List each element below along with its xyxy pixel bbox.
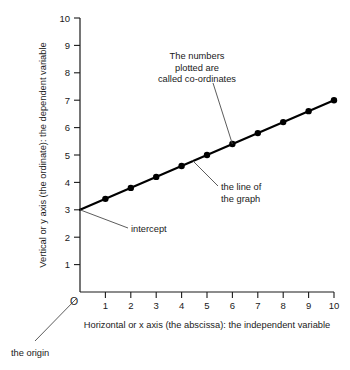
data-point xyxy=(204,152,210,158)
x-axis-title: Horizontal or x axis (the abscissa): the… xyxy=(84,320,331,330)
y-tick-label: 1 xyxy=(65,259,70,270)
x-tick-label: 5 xyxy=(204,300,209,311)
x-tick-label: 1 xyxy=(103,300,108,311)
annotation-line-of-graph-line-1: the line of xyxy=(221,182,262,192)
y-tick-label: 6 xyxy=(65,122,70,133)
annotation-leader-line xyxy=(80,210,128,228)
y-tick-label: 9 xyxy=(65,40,70,51)
data-point xyxy=(331,97,337,103)
annotation-leader-line xyxy=(192,160,218,186)
annotation-origin-label: the origin xyxy=(11,348,49,358)
x-tick-label: 6 xyxy=(230,300,235,311)
figure-container: 10 9 8 7 6 5 4 3 2 1 1 2 xyxy=(0,0,350,370)
coordinate-graph-figure: 10 9 8 7 6 5 4 3 2 1 1 2 xyxy=(0,0,350,370)
annotation-leader-line xyxy=(213,83,232,144)
y-tick-label: 8 xyxy=(65,67,70,78)
data-point xyxy=(153,174,159,180)
y-tick-label: 4 xyxy=(65,177,70,188)
data-point xyxy=(102,196,108,202)
x-tick-label: 8 xyxy=(281,300,286,311)
annotation-coordinates-line-1: The numbers xyxy=(170,51,225,61)
annotation-leader-line xyxy=(35,299,76,341)
y-axis-title: Vertical or y axis (the ordinate): the d… xyxy=(38,42,48,267)
x-tick-label: 4 xyxy=(179,300,184,311)
data-point xyxy=(128,185,134,191)
annotation-origin: the origin xyxy=(11,299,76,358)
annotation-line-of-graph: the line of the graph xyxy=(192,160,262,204)
data-point xyxy=(255,130,261,136)
annotation-line-of-graph-line-2: the graph xyxy=(221,194,260,204)
annotation-intercept: intercept xyxy=(80,210,167,234)
data-point xyxy=(280,119,286,125)
y-tick-label: 10 xyxy=(59,13,70,24)
y-tick-label: 3 xyxy=(65,204,70,215)
y-tick-label: 5 xyxy=(65,150,70,161)
annotation-coordinates-line-2: plotted are xyxy=(175,63,219,73)
y-tick-label: 7 xyxy=(65,95,70,106)
data-point xyxy=(305,108,311,114)
annotation-coordinates-line-3: called co-ordinates xyxy=(158,74,236,84)
x-tick-label: 2 xyxy=(128,300,133,311)
x-tick-label: 7 xyxy=(255,300,260,311)
annotation-intercept-label: intercept xyxy=(131,224,167,234)
y-axis-ticks: 10 9 8 7 6 5 4 3 2 1 xyxy=(59,13,80,271)
x-tick-label: 9 xyxy=(306,300,311,311)
y-tick-label: 2 xyxy=(65,232,70,243)
annotation-coordinates: The numbers plotted are called co-ordina… xyxy=(158,51,236,144)
x-axis-ticks: 1 2 3 4 5 6 7 8 9 10 xyxy=(103,292,340,311)
x-tick-label: 10 xyxy=(329,300,340,311)
x-tick-label: 3 xyxy=(154,300,159,311)
data-point xyxy=(178,163,184,169)
